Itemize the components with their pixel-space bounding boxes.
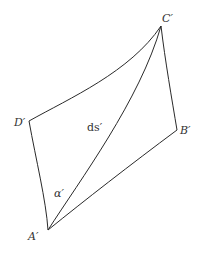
label-c-prime: C′ (162, 12, 173, 25)
edge-b-a (48, 130, 177, 230)
label-d-prime: D′ (13, 116, 26, 129)
label-a-prime: A′ (27, 230, 39, 243)
edge-d-c (29, 26, 161, 121)
diagonal-ds (48, 26, 161, 230)
edge-c-b (161, 26, 177, 130)
deformed-element-diagram: C′ D′ B′ A′ ds′ α′ (0, 0, 204, 257)
edge-a-d (29, 121, 48, 230)
label-b-prime: B′ (179, 124, 191, 137)
label-ds-prime: ds′ (87, 121, 103, 134)
label-alpha-prime: α′ (54, 187, 64, 200)
